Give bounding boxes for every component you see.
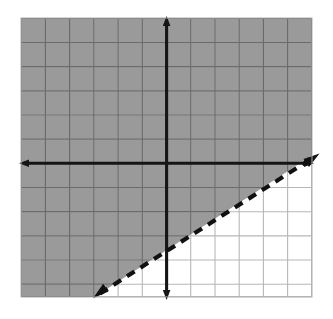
inequality-graph bbox=[0, 0, 333, 319]
figure-canvas: Graph of a linear inequality on a coordi… bbox=[0, 0, 333, 319]
